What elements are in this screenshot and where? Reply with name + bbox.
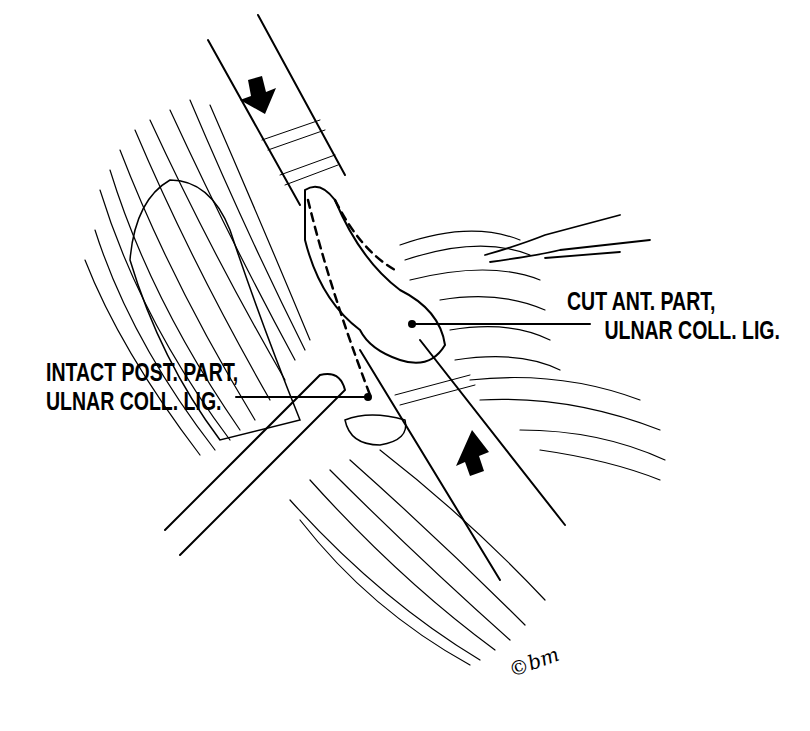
incision-dashed-line: [308, 200, 370, 395]
label-line-1: INTACT POST. PART,: [46, 358, 238, 387]
hook-retractor: [485, 215, 650, 262]
ligament-outline: [305, 187, 445, 363]
upward-arrow-icon: [456, 430, 489, 476]
forearm-fibers: [290, 450, 545, 665]
label-line-2: ULNAR COLL. LIG.: [567, 316, 780, 345]
label-intact-posterior-part: INTACT POST. PART, ULNAR COLL. LIG.: [46, 358, 238, 416]
label-cut-anterior-part: CUT ANT. PART, ULNAR COLL. LIG.: [567, 287, 780, 345]
label-line-2: ULNAR COLL. LIG.: [46, 387, 238, 416]
upper-retractor: [208, 15, 345, 205]
label-line-1: CUT ANT. PART,: [567, 287, 780, 316]
right-muscle-fibers: [400, 231, 665, 480]
